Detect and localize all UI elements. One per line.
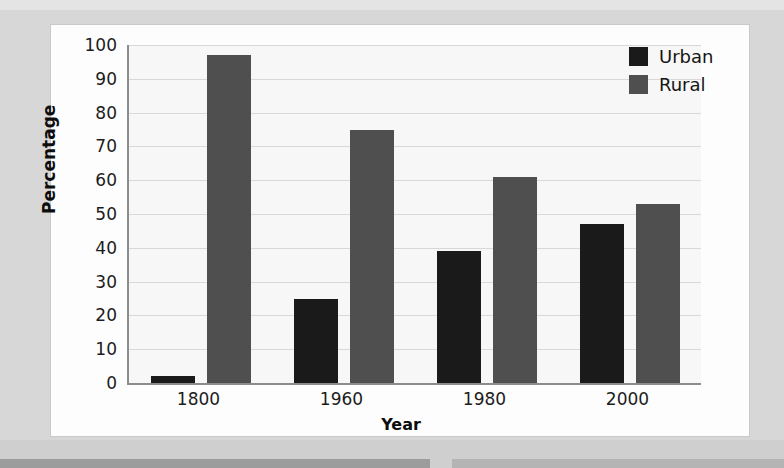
x-axis-tick-label: 1960 <box>292 389 392 409</box>
x-axis-tick-label: 1980 <box>435 389 535 409</box>
bar-rural-1960 <box>350 130 394 384</box>
legend-swatch-urban <box>629 47 648 66</box>
y-axis-tick-label: 10 <box>77 341 117 358</box>
y-axis-tick-label: 20 <box>77 307 117 324</box>
legend-item-label: Rural <box>659 76 706 94</box>
x-axis-tick-label: 1800 <box>149 389 249 409</box>
plot-area <box>127 45 701 385</box>
x-axis-title: Year <box>51 415 751 434</box>
y-axis-tick-label: 100 <box>77 37 117 54</box>
y-axis-tick-label: 40 <box>77 239 117 256</box>
y-axis-tick-label: 80 <box>77 104 117 121</box>
legend-item-urban: Urban <box>629 47 749 66</box>
bar-urban-1980 <box>437 251 481 383</box>
chart-figure-card: Percentage 0102030405060708090100 180019… <box>50 24 750 437</box>
bar-urban-1960 <box>294 299 338 384</box>
bar-rural-1980 <box>493 177 537 383</box>
scan-bottom-shadow-left <box>0 459 430 468</box>
scan-bottom-shadow-right <box>452 459 784 468</box>
bar-rural-1800 <box>207 55 251 383</box>
y-axis-title: Percentage <box>39 105 59 214</box>
legend-swatch-rural <box>629 75 648 94</box>
bar-rural-2000 <box>636 204 680 383</box>
y-axis-tick-label: 0 <box>77 375 117 392</box>
scanned-page: Percentage 0102030405060708090100 180019… <box>0 0 784 468</box>
legend-item-label: Urban <box>659 48 713 66</box>
chart-legend: UrbanRural <box>629 47 749 103</box>
y-axis-tick-label: 30 <box>77 273 117 290</box>
y-axis-tick-label: 50 <box>77 206 117 223</box>
y-axis-tick-label: 90 <box>77 70 117 87</box>
scan-top-strip <box>0 0 784 10</box>
y-axis-tick-label: 60 <box>77 172 117 189</box>
legend-item-rural: Rural <box>629 75 749 94</box>
gridline <box>129 45 701 46</box>
x-axis-tick-label: 2000 <box>578 389 678 409</box>
bar-urban-1800 <box>151 376 195 383</box>
y-axis-tick-label: 70 <box>77 138 117 155</box>
bar-urban-2000 <box>580 224 624 383</box>
